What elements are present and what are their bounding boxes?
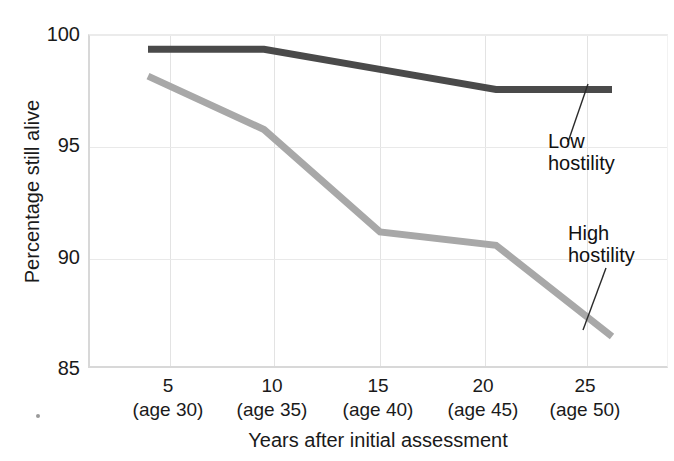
x-axis-title: Years after initial assessment	[88, 429, 668, 452]
series-line-high-hostility	[148, 76, 612, 337]
x-tick-25-age: (age 50)	[510, 398, 660, 422]
plot-area	[88, 34, 668, 368]
chart-figure: 100 95 90 85 Percentage still alive 5 (a…	[0, 0, 674, 461]
series-line-low-hostility	[148, 49, 612, 89]
y-axis-title: Percentage still alive	[21, 42, 44, 342]
x-tick-25-number: 25	[510, 374, 660, 398]
annotation-high-hostility: High hostility	[568, 222, 635, 267]
x-axis-tick-labels: 5 (age 30) 10 (age 35) 15 (age 40) 20 (a…	[88, 374, 668, 434]
annotation-high-hostility-line2: hostility	[568, 244, 635, 266]
annotation-low-hostility-line2: hostility	[548, 152, 615, 174]
series-container	[90, 36, 670, 370]
y-tick-85: 85	[4, 358, 80, 378]
annotation-high-hostility-line1: High	[568, 222, 635, 244]
x-tick-25: 25 (age 50)	[510, 374, 660, 422]
annotation-low-hostility-line1: Low	[548, 130, 615, 152]
annotation-low-hostility: Low hostility	[548, 130, 615, 175]
scan-speck	[36, 414, 40, 418]
